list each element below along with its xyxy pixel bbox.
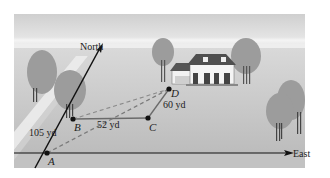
point-c — [145, 115, 150, 120]
point-b-label: B — [74, 121, 81, 133]
east-label: East — [293, 148, 310, 159]
point-d-label: D — [170, 87, 179, 99]
distance-bc-label: 52 yd — [97, 119, 120, 130]
point-a-label: A — [47, 155, 55, 167]
distance-cd-label: 60 yd — [163, 99, 186, 110]
north-label: North — [80, 41, 103, 52]
point-c-label: C — [149, 121, 157, 133]
distance-ab-label: 105 yd — [29, 127, 57, 138]
surveying-diagram: North East A B C D 105 yd 52 yd 60 yd — [0, 0, 330, 178]
